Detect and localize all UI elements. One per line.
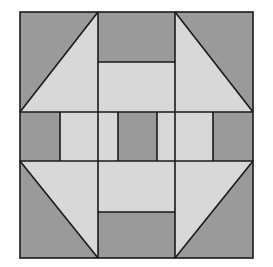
unit-corner-top-left [20,12,98,112]
rail-top-dark-bar [98,12,175,62]
unit-center [98,112,175,161]
rail-right-light-bar [175,112,213,161]
unit-corner-bottom-left [20,161,98,258]
unit-rail-bottom [98,161,175,258]
rail-left-light-bar [60,112,98,161]
center-right-light-filler [157,112,175,161]
quilt-block-figure: Quilt Block Pattern [0,0,273,267]
unit-rail-left [20,112,98,161]
quilt-block-canvas [0,0,273,267]
unit-corner-bottom-right [175,161,253,258]
unit-rail-right [175,112,253,161]
rail-bottom-light-bar [98,161,175,212]
rail-bottom-dark-bar [98,212,175,258]
center-dark-square [118,112,157,161]
rail-left-dark-bar [20,112,60,161]
rail-top-light-bar [98,62,175,112]
unit-corner-top-right [175,12,253,112]
rail-right-dark-bar [213,112,253,161]
center-left-light-filler [98,112,118,161]
